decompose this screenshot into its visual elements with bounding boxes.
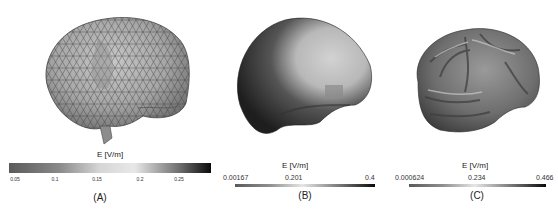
colorbar-tick: 0.15 — [92, 176, 102, 182]
colorbar-tick: 0.1 — [52, 176, 59, 182]
colorbar — [235, 184, 375, 187]
brain-mesh-image — [38, 8, 203, 148]
colorbar — [409, 184, 546, 187]
panel-caption: (B) — [293, 190, 317, 201]
colorbar-tick: 0.4 — [365, 174, 375, 181]
colorbar-unit-label: E [V/m] — [445, 161, 505, 170]
brain-surface-image — [230, 10, 375, 145]
colorbar-tick: 0.2 — [137, 176, 144, 182]
colorbar-tick: 0.05 — [10, 176, 20, 182]
panel-caption: (A) — [88, 192, 112, 203]
panel-a: E [V/m] 0.05 0.1 0.15 0.2 0.25 (A) — [0, 0, 220, 210]
panel-b: E [V/m] 0.00167 0.201 0.4 (B) — [215, 0, 385, 210]
panel-c: E [V/m] 0.000624 0.234 0.466 (C) — [395, 0, 558, 210]
cortical-surface-image — [410, 22, 545, 140]
colorbar-tick: 0.466 — [536, 174, 554, 181]
colorbar-tick: 0.234 — [468, 174, 486, 181]
colorbar-tick: 0.25 — [174, 176, 184, 182]
colorbar-tick: 0.00167 — [223, 174, 248, 181]
colorbar-tick: 0.201 — [285, 174, 303, 181]
colorbar — [9, 163, 211, 173]
colorbar-unit-label: E [V/m] — [265, 161, 325, 170]
panel-caption: (C) — [465, 190, 489, 201]
colorbar-unit-label: E [V/m] — [90, 150, 130, 159]
colorbar-tick: 0.000624 — [395, 174, 424, 181]
